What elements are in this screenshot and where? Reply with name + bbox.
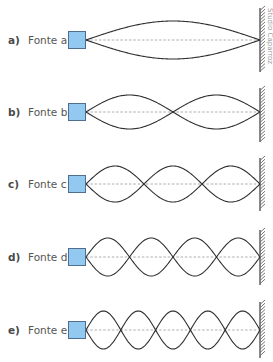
wave-lower-envelope-a [86, 40, 260, 59]
source-name-a: Fonte a [28, 34, 67, 46]
row-letter-d: d) [8, 250, 28, 264]
source-name-d: Fonte d [28, 251, 67, 263]
standing-waves-figure: a)Fonte a b)Fonte b c)Fonte c d)Fonte d … [0, 0, 273, 362]
wave-upper-envelope-b [86, 95, 260, 112]
source-name-b: Fonte b [28, 106, 67, 118]
wave-upper-envelope-a [86, 21, 260, 40]
row-letter-b: b) [8, 105, 28, 119]
wall-hatching-d [261, 228, 266, 283]
wall-hatching-e [261, 300, 266, 355]
row-label-d: d)Fonte d [8, 250, 67, 264]
source-name-e: Fonte e [28, 324, 67, 336]
wave-upper-envelope-c [86, 166, 260, 184]
source-name-c: Fonte c [28, 178, 66, 190]
row-label-e: e)Fonte e [8, 323, 67, 337]
wave-upper-envelope-d [86, 238, 260, 257]
row-letter-c: c) [8, 177, 28, 191]
wall-hatching-b [261, 86, 266, 141]
source-box-b [69, 104, 86, 121]
row-letter-a: a) [8, 33, 28, 47]
wave-lower-envelope-e [86, 330, 260, 349]
wave-lower-envelope-c [86, 184, 260, 202]
row-letter-e: e) [8, 323, 28, 337]
source-box-c [69, 176, 86, 193]
source-box-e [69, 322, 86, 339]
wall-hatching-c [261, 156, 266, 208]
row-label-c: c)Fonte c [8, 177, 66, 191]
row-label-b: b)Fonte b [8, 105, 67, 119]
wave-upper-envelope-e [86, 311, 260, 330]
wave-lower-envelope-b [86, 112, 260, 129]
source-box-a [69, 32, 86, 49]
row-label-a: a)Fonte a [8, 33, 67, 47]
wave-lower-envelope-d [86, 257, 260, 276]
image-credit: Studio Caparroz [264, 8, 273, 78]
source-box-d [69, 249, 86, 266]
